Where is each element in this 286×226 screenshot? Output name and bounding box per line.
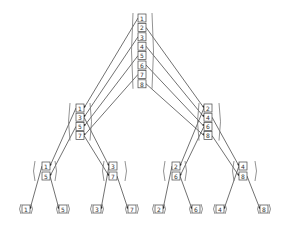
right-bracket: [185, 161, 187, 181]
left-bracket: [132, 13, 134, 89]
right-bracket: [152, 13, 154, 89]
node-7: 7: [138, 70, 146, 78]
node-8: 8: [204, 132, 212, 140]
node-7: 7: [76, 132, 84, 140]
node-3: 3: [109, 162, 117, 170]
node-1: 1: [22, 205, 30, 213]
node-label: 1: [44, 163, 48, 170]
node-label: 4: [241, 163, 245, 170]
edge-6-level-2: [180, 176, 192, 209]
node-label: 5: [78, 123, 82, 130]
node-label: 5: [61, 206, 65, 213]
node-2: 2: [138, 23, 146, 31]
node-7: 7: [128, 205, 136, 213]
right-bracket: [125, 161, 127, 181]
node-1: 1: [138, 14, 146, 22]
node-6: 6: [172, 172, 180, 180]
node-label: 6: [194, 206, 198, 213]
right-bracket: [269, 204, 271, 214]
edge-5-level-0: [84, 56, 138, 127]
edge-6-level-1: [180, 126, 204, 176]
left-bracket: [164, 161, 166, 181]
node-label: 2: [174, 163, 178, 170]
edge-2-level-1: [180, 108, 204, 166]
edge-7-level-2: [117, 176, 128, 209]
edge-1-level-2: [30, 166, 42, 209]
node-2: 2: [204, 104, 212, 112]
left-bracket: [153, 204, 155, 214]
node-1: 1: [76, 104, 84, 112]
edge-4-level-0: [146, 46, 204, 117]
node-6: 6: [192, 205, 200, 213]
right-bracket: [102, 204, 104, 214]
right-bracket: [68, 204, 70, 214]
edge-8-level-0: [146, 84, 204, 136]
left-bracket: [233, 161, 235, 181]
node-label: 4: [140, 43, 144, 50]
edge-5-level-1: [50, 126, 76, 176]
node-4: 4: [216, 205, 224, 213]
node-label: 6: [206, 123, 210, 130]
edge-1-level-0: [84, 18, 138, 108]
left-bracket: [103, 161, 105, 181]
node-5: 5: [138, 52, 146, 60]
node-8: 8: [260, 205, 268, 213]
right-bracket: [137, 204, 139, 214]
node-label: 7: [111, 173, 115, 180]
node-4: 4: [204, 113, 212, 121]
node-3: 3: [138, 33, 146, 41]
node-label: 3: [111, 163, 115, 170]
node-label: 1: [78, 105, 82, 112]
node-label: 4: [218, 206, 222, 213]
node-1: 1: [42, 162, 50, 170]
node-label: 7: [78, 132, 82, 139]
node-8: 8: [138, 80, 146, 88]
node-6: 6: [138, 61, 146, 69]
right-bracket: [90, 103, 92, 141]
left-bracket: [20, 204, 22, 214]
node-label: 3: [78, 114, 82, 121]
right-bracket: [164, 204, 166, 214]
node-3: 3: [93, 205, 101, 213]
node-label: 2: [157, 206, 161, 213]
node-label: 5: [140, 52, 144, 59]
node-label: 8: [206, 132, 210, 139]
node-label: 2: [140, 24, 144, 31]
node-label: 1: [24, 206, 28, 213]
edge-2-level-2: [163, 166, 172, 209]
node-label: 8: [262, 206, 266, 213]
node-label: 5: [44, 173, 48, 180]
node-3: 3: [76, 113, 84, 121]
node-7: 7: [109, 172, 117, 180]
node-label: 6: [174, 173, 178, 180]
node-label: 1: [140, 15, 144, 22]
node-2: 2: [155, 205, 163, 213]
node-label: 7: [130, 206, 134, 213]
node-label: 3: [140, 34, 144, 41]
edge-1-level-1: [50, 108, 76, 166]
node-5: 5: [42, 172, 50, 180]
right-bracket: [255, 161, 257, 181]
node-5: 5: [76, 122, 84, 130]
node-2: 2: [172, 162, 180, 170]
right-bracket: [201, 204, 203, 214]
nodes: 12345678135724681537264815372648: [22, 14, 268, 213]
node-label: 4: [206, 114, 210, 121]
left-bracket: [34, 161, 36, 181]
edge-4-level-2: [224, 166, 239, 209]
node-label: 8: [241, 173, 245, 180]
right-bracket: [219, 103, 221, 141]
left-bracket: [214, 204, 216, 214]
node-4: 4: [138, 42, 146, 50]
node-6: 6: [204, 122, 212, 130]
node-8: 8: [239, 172, 247, 180]
node-label: 3: [95, 206, 99, 213]
node-5: 5: [59, 205, 67, 213]
node-label: 6: [140, 62, 144, 69]
tree-diagram: 12345678135724681537264815372648: [0, 0, 286, 226]
edge-8-level-2: [247, 176, 260, 209]
node-label: 7: [140, 71, 144, 78]
node-label: 8: [140, 81, 144, 88]
node-4: 4: [239, 162, 247, 170]
node-label: 2: [206, 105, 210, 112]
